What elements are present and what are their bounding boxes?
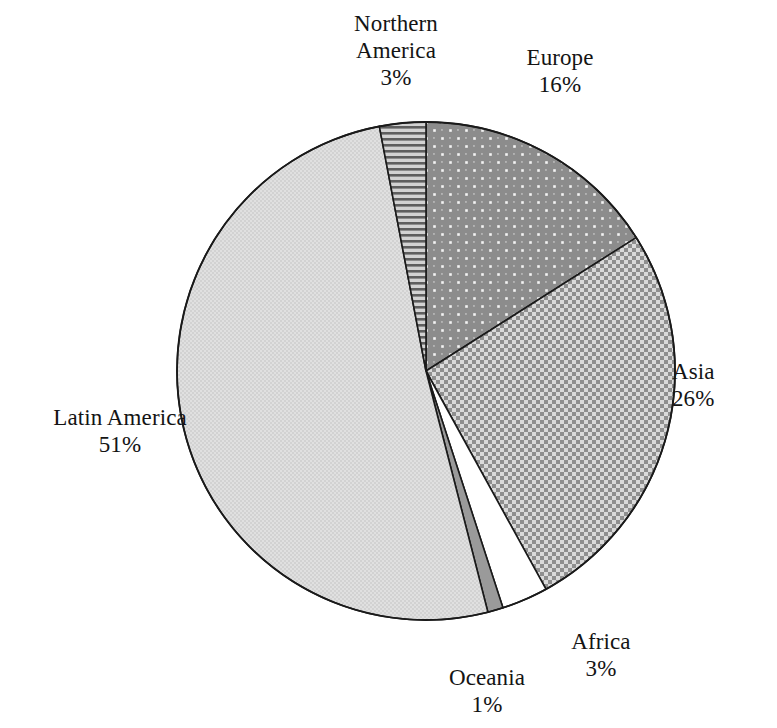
slice-label-europe-name: Europe [490,44,630,71]
slice-label-latin-america-pct: 51% [16,431,224,458]
slice-label-oceania-pct: 1% [414,691,560,718]
slice-label-latin-america-name: Latin America [16,404,224,431]
slice-label-northern-america: Northern America 3% [318,10,474,91]
slice-label-africa: Africa 3% [548,628,654,682]
pie-chart-svg [0,0,777,728]
slice-label-asia-pct: 26% [672,385,768,412]
slice-label-africa-pct: 3% [548,655,654,682]
slice-label-oceania-name: Oceania [414,664,560,691]
slice-label-africa-name: Africa [548,628,654,655]
pie-chart-figure: Northern America 3% Europe 16% Asia 26% … [0,0,777,728]
slice-label-northern-america-pct: 3% [318,64,474,91]
slice-label-latin-america: Latin America 51% [16,404,224,458]
slice-label-asia: Asia 26% [672,358,768,412]
slice-label-northern-america-name-line1: Northern [318,10,474,37]
slice-label-oceania: Oceania 1% [414,664,560,718]
slice-label-europe-pct: 16% [490,71,630,98]
slice-label-northern-america-name-line2: America [318,37,474,64]
slice-label-asia-name: Asia [672,358,768,385]
slice-label-europe: Europe 16% [490,44,630,98]
